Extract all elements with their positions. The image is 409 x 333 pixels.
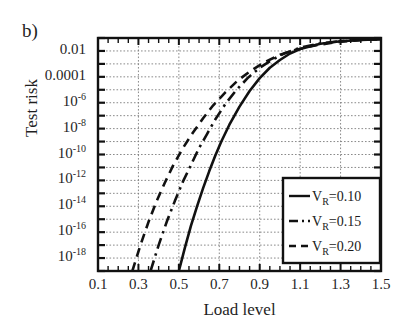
x-tick-label: 0.9 bbox=[240, 276, 280, 293]
x-tick-label: 1.5 bbox=[361, 276, 401, 293]
x-tick-label: 0.5 bbox=[159, 276, 199, 293]
x-tick-label: 0.7 bbox=[199, 276, 239, 293]
x-axis-tick-labels: 0.10.30.50.70.91.11.31.5 bbox=[0, 0, 409, 333]
x-tick-label: 0.3 bbox=[118, 276, 158, 293]
x-tick-label: 0.1 bbox=[78, 276, 118, 293]
x-tick-label: 1.1 bbox=[280, 276, 320, 293]
x-tick-label: 1.3 bbox=[321, 276, 361, 293]
figure-panel-b: b) Test risk Load level 0.010.000110-610… bbox=[0, 0, 409, 333]
